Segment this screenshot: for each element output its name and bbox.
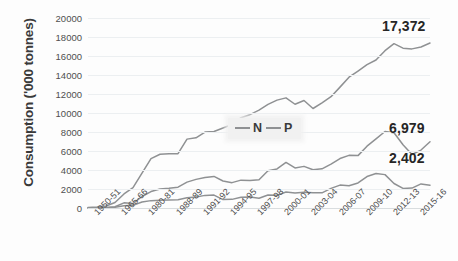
y-tick-label: 4000 <box>28 165 82 176</box>
legend-label: N <box>253 121 262 135</box>
legend[interactable]: NP <box>228 118 301 139</box>
legend-label: P <box>284 121 292 135</box>
y-tick-label: 16000 <box>28 51 82 62</box>
y-tick-label: 14000 <box>28 70 82 81</box>
legend-swatch-icon <box>266 127 281 129</box>
grid-line <box>88 56 430 57</box>
end-value-label-n: 17,372 <box>382 18 425 34</box>
grid-line <box>88 113 430 114</box>
grid-line <box>88 151 430 152</box>
plot-area <box>88 18 430 208</box>
grid-line <box>88 94 430 95</box>
grid-line <box>88 170 430 171</box>
end-value-label-p: 6,979 <box>389 120 425 136</box>
legend-item-n[interactable]: N <box>235 121 262 135</box>
x-axis-tick-labels: 1950-511965-661980-811988-891991-921994-… <box>88 210 430 260</box>
grid-line <box>88 75 430 76</box>
grid-line <box>88 37 430 38</box>
y-tick-label: 8000 <box>28 127 82 138</box>
legend-swatch-icon <box>235 127 250 129</box>
y-tick-label: 12000 <box>28 89 82 100</box>
y-tick-label: 6000 <box>28 146 82 157</box>
y-tick-label: 0 <box>28 203 82 214</box>
end-value-label-k: 2,402 <box>389 150 425 166</box>
y-tick-label: 18000 <box>28 32 82 43</box>
y-tick-label: 2000 <box>28 184 82 195</box>
legend-item-p[interactable]: P <box>266 121 292 135</box>
y-tick-label: 10000 <box>28 108 82 119</box>
y-tick-label: 20000 <box>28 13 82 24</box>
line-chart: Consumption ('000 tonnes) 20000180001600… <box>0 0 458 261</box>
grid-line <box>88 18 430 19</box>
